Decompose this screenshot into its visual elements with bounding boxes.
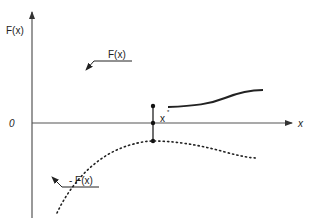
x-star-label: x (160, 113, 165, 124)
origin-label: 0 (9, 118, 15, 129)
y-axis-label: F(x) (6, 25, 24, 36)
upper-curve-f (168, 90, 263, 107)
upper-curve-label: F(x) (108, 49, 126, 60)
lower-curve-label: - F(x) (69, 175, 93, 186)
marker-dot-upper (151, 104, 155, 108)
x-star-superscript: * (167, 109, 170, 115)
x-axis-label: x (297, 118, 304, 129)
function-diagram: F(x) x 0 x * F(x) - F(x) (0, 0, 317, 224)
marker-dot-axis (151, 121, 155, 125)
upper-label-leader (86, 61, 132, 70)
